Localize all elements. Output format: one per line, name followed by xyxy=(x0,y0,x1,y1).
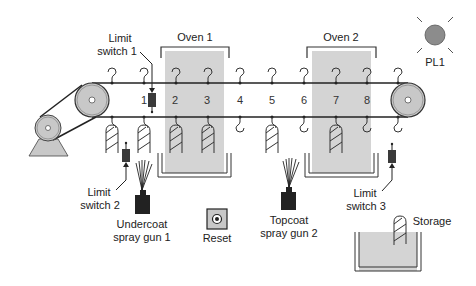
label-line: Undercoat xyxy=(112,218,172,231)
oven-1-label: Oven 1 xyxy=(175,31,215,44)
conveyor-diagram xyxy=(0,0,476,286)
reset-button[interactable] xyxy=(207,209,227,229)
label-line: switch 3 xyxy=(346,200,386,213)
limit-switch-3-label: Limit switch 3 xyxy=(346,187,386,213)
topcoat-gun-label: Topcoat spray gun 2 xyxy=(259,214,319,240)
oven-2 xyxy=(305,47,378,177)
pilot-lamp-pl1 xyxy=(417,17,453,53)
position-7: 7 xyxy=(329,94,343,106)
position-5: 5 xyxy=(265,94,279,106)
position-4: 4 xyxy=(233,94,247,106)
reset-label: Reset xyxy=(200,232,234,245)
position-6: 6 xyxy=(297,94,311,106)
limit-switch-3 xyxy=(382,143,396,191)
oven-1 xyxy=(158,47,231,177)
oven-2-label: Oven 2 xyxy=(321,31,361,44)
label-line: spray gun 2 xyxy=(259,227,319,240)
undercoat-spray-gun xyxy=(135,160,152,214)
motor-pulley xyxy=(35,115,61,141)
limit-switch-1-label: Limit switch 1 xyxy=(100,32,140,58)
position-8: 8 xyxy=(360,94,374,106)
label-line: Limit xyxy=(100,32,140,45)
label-line: switch 1 xyxy=(94,45,140,58)
position-3: 3 xyxy=(200,94,214,106)
storage-label: Storage xyxy=(410,215,454,228)
undercoat-gun-label: Undercoat spray gun 1 xyxy=(112,218,172,244)
label-line: Limit xyxy=(344,187,386,200)
position-2: 2 xyxy=(168,94,182,106)
right-pulley xyxy=(391,83,425,117)
label-line: Limit xyxy=(78,186,120,199)
left-pulley xyxy=(75,83,109,117)
label-line: spray gun 1 xyxy=(112,231,172,244)
label-line: switch 2 xyxy=(80,199,120,212)
topcoat-spray-gun xyxy=(281,158,299,210)
pilot-lamp-label: PL1 xyxy=(424,56,446,69)
position-1: 1 xyxy=(137,94,151,106)
label-line: Topcoat xyxy=(259,214,319,227)
motor-base xyxy=(29,139,68,156)
limit-switch-2-label: Limit switch 2 xyxy=(80,186,120,212)
